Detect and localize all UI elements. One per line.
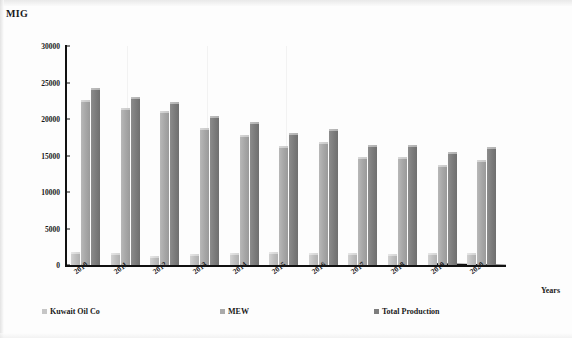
legend-item[interactable]: Kuwait Oil Co bbox=[42, 307, 100, 316]
bar-group bbox=[111, 97, 140, 265]
bar-group bbox=[71, 88, 100, 265]
legend-swatch-icon bbox=[220, 309, 225, 314]
bar bbox=[81, 100, 90, 265]
y-axis-tick-mark bbox=[66, 155, 70, 156]
y-axis-tick-mark bbox=[66, 119, 70, 120]
bar bbox=[408, 145, 417, 265]
legend-label: Total Production bbox=[382, 307, 440, 316]
bar-group bbox=[428, 152, 457, 265]
bar-group bbox=[190, 116, 219, 265]
chart-legend: Kuwait Oil CoMEWTotal Production bbox=[42, 307, 542, 323]
y-axis-tick-label: 25000 bbox=[41, 78, 66, 87]
legend-label: MEW bbox=[228, 307, 249, 316]
bar bbox=[170, 102, 179, 265]
bar-group bbox=[388, 145, 417, 265]
y-axis-tick-mark bbox=[66, 228, 70, 229]
bar bbox=[131, 97, 140, 265]
legend-label: Kuwait Oil Co bbox=[50, 307, 100, 316]
bar bbox=[279, 146, 288, 265]
bar bbox=[160, 111, 169, 265]
legend-item[interactable]: Total Production bbox=[374, 307, 440, 316]
y-axis-tick-label: 15000 bbox=[41, 151, 66, 160]
bar bbox=[398, 157, 407, 265]
scan-bottom-edge bbox=[0, 333, 572, 338]
bar bbox=[319, 142, 328, 265]
bar bbox=[477, 160, 486, 265]
bar-group bbox=[348, 145, 377, 265]
chart-y-axis-title: MIG bbox=[6, 8, 28, 19]
bar bbox=[210, 116, 219, 265]
y-axis-tick-label: 20000 bbox=[41, 115, 66, 124]
plot-area: 050001000015000200002500030000 bbox=[66, 46, 502, 265]
bar-group bbox=[467, 147, 496, 265]
bar bbox=[200, 128, 209, 265]
bar bbox=[289, 133, 298, 265]
legend-swatch-icon bbox=[42, 309, 47, 314]
y-axis-tick-mark bbox=[66, 192, 70, 193]
bar-group bbox=[150, 102, 179, 265]
bar bbox=[358, 157, 367, 265]
legend-swatch-icon bbox=[374, 309, 379, 314]
bar bbox=[250, 122, 259, 265]
bar bbox=[368, 145, 377, 265]
y-axis-tick-label: 0 bbox=[56, 261, 66, 270]
y-axis-tick-label: 10000 bbox=[41, 188, 66, 197]
scan-top-band bbox=[0, 0, 572, 6]
bar-group bbox=[230, 122, 259, 265]
bar bbox=[121, 108, 130, 265]
y-axis-tick-mark bbox=[66, 265, 70, 266]
bar bbox=[91, 88, 100, 265]
y-axis-tick-mark bbox=[66, 82, 70, 83]
y-axis-tick-label: 30000 bbox=[41, 42, 66, 51]
bar bbox=[487, 147, 496, 265]
legend-item[interactable]: MEW bbox=[220, 307, 249, 316]
bar-group bbox=[309, 129, 338, 265]
scan-left-edge bbox=[0, 0, 4, 338]
x-axis-title: Years bbox=[541, 286, 560, 295]
y-axis-tick-label: 5000 bbox=[45, 224, 66, 233]
bar bbox=[329, 129, 338, 265]
bar bbox=[438, 165, 447, 265]
bar-group bbox=[269, 133, 298, 265]
bar bbox=[448, 152, 457, 265]
y-axis-tick-mark bbox=[66, 46, 70, 47]
bar bbox=[240, 135, 249, 265]
